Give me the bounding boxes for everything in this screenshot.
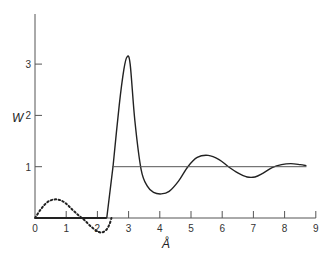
- x-tick-label: 4: [157, 223, 163, 234]
- x-axis-label: Å: [161, 236, 170, 251]
- axes: 0123456789123: [25, 14, 319, 234]
- x-tick-label: 3: [126, 223, 132, 234]
- y-tick-label: 1: [25, 162, 31, 173]
- y-axis-label: W: [12, 111, 25, 125]
- w-curve: [107, 56, 307, 218]
- x-tick-label: 9: [313, 223, 319, 234]
- series-group: [35, 56, 306, 232]
- x-tick-label: 6: [219, 223, 225, 234]
- chart: 0123456789123 W Å: [0, 0, 332, 257]
- x-tick-label: 7: [251, 223, 257, 234]
- y-tick-label: 2: [25, 110, 31, 121]
- x-tick-label: 1: [63, 223, 69, 234]
- y-tick-label: 3: [25, 59, 31, 70]
- x-tick-label: 5: [188, 223, 194, 234]
- x-tick-label: 8: [282, 223, 288, 234]
- x-tick-label: 0: [32, 223, 38, 234]
